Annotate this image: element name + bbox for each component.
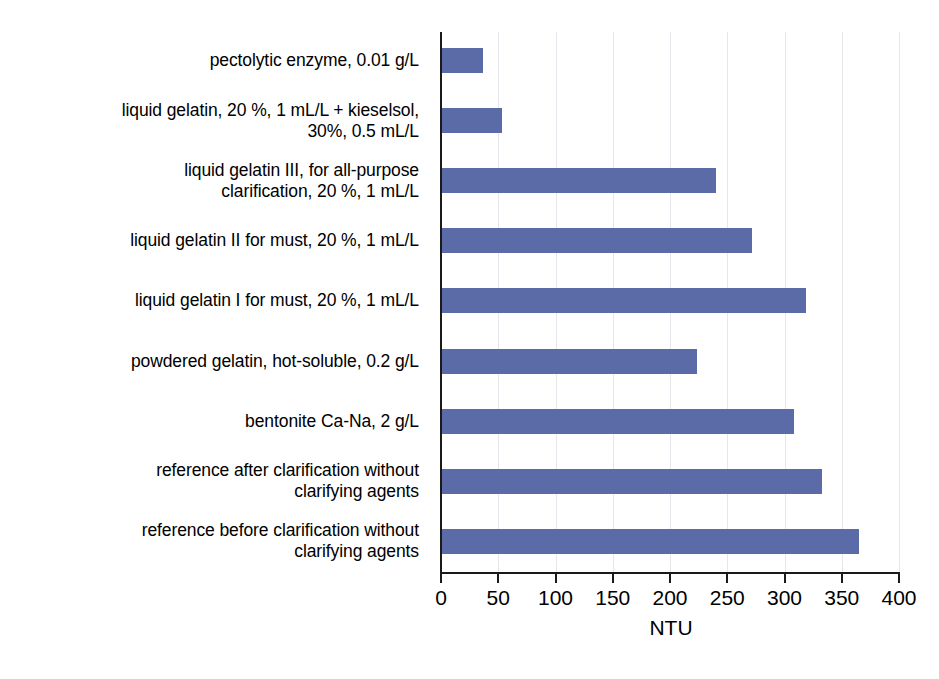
- bar: [441, 529, 859, 554]
- x-axis-tick: [669, 574, 671, 583]
- category-label-line: clarification, 20 %, 1 mL/L: [0, 181, 419, 202]
- category-label-line: powdered gelatin, hot-soluble, 0.2 g/L: [0, 351, 419, 372]
- category-label-line: clarifying agents: [0, 481, 419, 502]
- x-axis-tick: [841, 574, 843, 583]
- x-axis-tick: [440, 574, 442, 583]
- bar-chart: pectolytic enzyme, 0.01 g/Lliquid gelati…: [0, 0, 939, 679]
- x-axis-tick-label: 250: [710, 586, 745, 610]
- x-axis-tick: [555, 574, 557, 583]
- gridline: [842, 32, 843, 573]
- category-label-line: liquid gelatin II for must, 20 %, 1 mL/L: [0, 230, 419, 251]
- category-label-line: reference after clarification without: [0, 460, 419, 481]
- category-label-line: liquid gelatin III, for all-purpose: [0, 160, 419, 181]
- x-axis-tick: [612, 574, 614, 583]
- x-axis-tick: [784, 574, 786, 583]
- category-label: powdered gelatin, hot-soluble, 0.2 g/L: [0, 351, 425, 372]
- category-label: liquid gelatin I for must, 20 %, 1 mL/L: [0, 290, 425, 311]
- x-axis-title: NTU: [441, 616, 901, 640]
- bar: [441, 349, 697, 374]
- x-axis-tick-label: 400: [881, 586, 916, 610]
- bar: [441, 108, 502, 133]
- bar: [441, 469, 822, 494]
- category-label-line: reference before clarification without: [0, 520, 419, 541]
- plot-area: [441, 32, 899, 573]
- category-label-column: pectolytic enzyme, 0.01 g/Lliquid gelati…: [0, 32, 425, 573]
- category-label: pectolytic enzyme, 0.01 g/L: [0, 50, 425, 71]
- category-label: liquid gelatin, 20 %, 1 mL/L + kieselsol…: [0, 100, 425, 142]
- category-label: liquid gelatin II for must, 20 %, 1 mL/L: [0, 230, 425, 251]
- category-label-line: 30%, 0.5 mL/L: [0, 121, 419, 142]
- x-axis-tick: [898, 574, 900, 583]
- x-axis-tick-label: 50: [487, 586, 510, 610]
- bar: [441, 168, 716, 193]
- y-axis-line: [440, 32, 442, 573]
- x-axis-tick-label: 100: [538, 586, 573, 610]
- x-axis-tick-label: 350: [824, 586, 859, 610]
- bar: [441, 228, 752, 253]
- x-axis-tick-label: 200: [652, 586, 687, 610]
- category-label: liquid gelatin III, for all-purposeclari…: [0, 160, 425, 202]
- bar: [441, 409, 794, 434]
- x-axis-tick-label: 150: [595, 586, 630, 610]
- category-label: reference before clarification withoutcl…: [0, 520, 425, 562]
- category-label: reference after clarification withoutcla…: [0, 460, 425, 502]
- x-axis-tick-label: 0: [435, 586, 447, 610]
- bar: [441, 288, 806, 313]
- category-label: bentonite Ca-Na, 2 g/L: [0, 411, 425, 432]
- x-axis-tick-label: 300: [767, 586, 802, 610]
- category-label-line: clarifying agents: [0, 541, 419, 562]
- category-label-line: liquid gelatin I for must, 20 %, 1 mL/L: [0, 290, 419, 311]
- category-label-line: bentonite Ca-Na, 2 g/L: [0, 411, 419, 432]
- x-axis-tick: [497, 574, 499, 583]
- category-label-line: liquid gelatin, 20 %, 1 mL/L + kieselsol…: [0, 100, 419, 121]
- gridline: [899, 32, 900, 573]
- category-label-line: pectolytic enzyme, 0.01 g/L: [0, 50, 419, 71]
- bar: [441, 48, 483, 73]
- x-axis-tick: [726, 574, 728, 583]
